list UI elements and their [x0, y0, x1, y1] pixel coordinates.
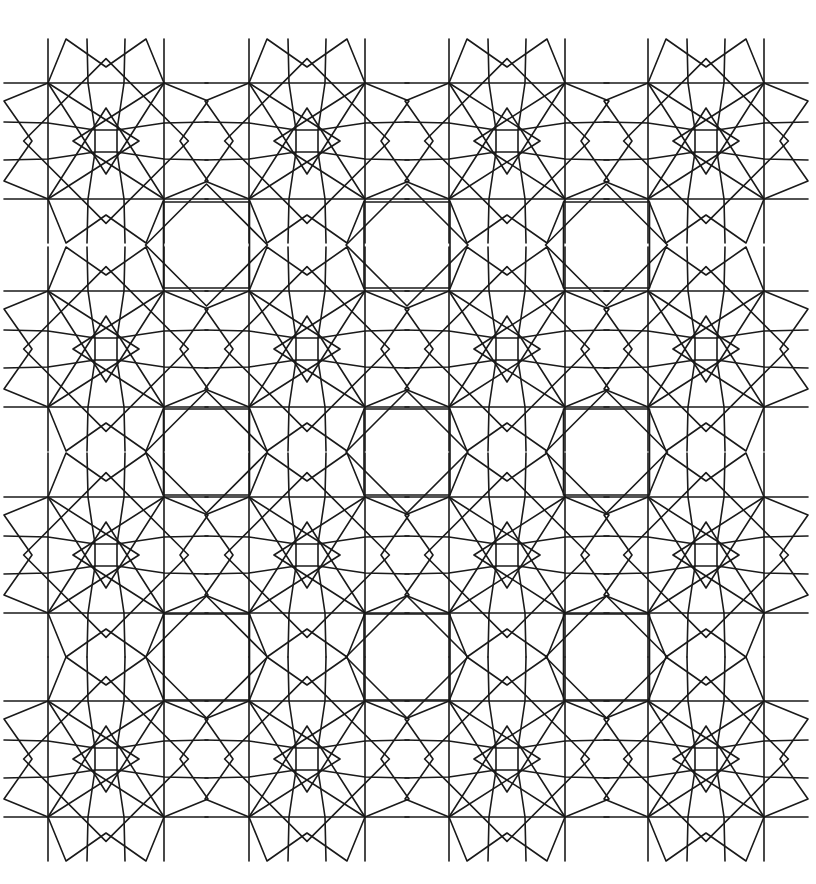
rail-vertical-inner: [518, 39, 526, 243]
star-peaks-top: [648, 657, 764, 701]
star-peaks-top: [449, 453, 565, 497]
rail-horizontal-inner: [405, 360, 609, 368]
star-chevron: [449, 701, 540, 817]
star-chevron: [673, 701, 764, 817]
star-chevron: [249, 291, 340, 407]
star-chevron: [274, 83, 365, 199]
rail-horizontal-inner: [405, 536, 609, 544]
rail-vertical-inner: [117, 247, 125, 451]
star-peaks-left: [4, 497, 48, 613]
star-chevron: [449, 497, 540, 613]
star-peaks-right: [164, 291, 208, 407]
star-peaks-right: [764, 83, 808, 199]
star-chevron: [474, 291, 565, 407]
star-chevron: [249, 701, 365, 792]
star-peaks-left: [4, 83, 48, 199]
rail-vertical-inner: [518, 247, 526, 451]
rail-horizontal-inner: [604, 536, 808, 544]
star-chevron: [48, 522, 164, 613]
star-peaks-top: [449, 247, 565, 291]
star-peaks-right: [365, 497, 409, 613]
rail-horizontal-inner: [4, 536, 208, 544]
rail-vertical-inner: [687, 39, 695, 243]
star-peaks-left: [205, 701, 249, 817]
rail-horizontal-inner: [405, 122, 609, 130]
rail-vertical-inner: [518, 657, 526, 861]
star-peaks-right: [565, 83, 609, 199]
star-chevron: [449, 291, 540, 407]
rail-horizontal-inner: [4, 152, 208, 160]
rail-vertical-inner: [488, 453, 496, 657]
rail-vertical-inner: [717, 453, 725, 657]
star-chevron: [449, 497, 565, 588]
rail-vertical-inner: [318, 247, 326, 451]
star-peaks-bottom: [648, 817, 764, 861]
star-peaks-left: [205, 291, 249, 407]
star-peaks-right: [164, 83, 208, 199]
rail-vertical-inner: [318, 657, 326, 861]
star-chevron: [648, 291, 739, 407]
star-peaks-top: [48, 247, 164, 291]
star-peaks-left: [205, 497, 249, 613]
star-chevron: [249, 497, 365, 588]
star-peaks-right: [365, 291, 409, 407]
star-peaks-bottom: [648, 407, 764, 451]
rail-horizontal-inner: [205, 566, 409, 574]
star-chevron: [449, 83, 565, 174]
rail-horizontal-inner: [205, 740, 409, 748]
star-peaks-bottom: [648, 199, 764, 243]
star-peaks-top: [48, 453, 164, 497]
rail-vertical-inner: [318, 453, 326, 657]
star-chevron: [449, 701, 565, 792]
star-peaks-right: [365, 701, 409, 817]
star-chevron: [48, 726, 164, 817]
rail-vertical-inner: [488, 39, 496, 243]
star-chevron: [474, 83, 565, 199]
rail-horizontal-inner: [604, 740, 808, 748]
star-chevron: [474, 701, 565, 817]
rail-horizontal-inner: [405, 740, 609, 748]
star-peaks-left: [405, 83, 449, 199]
star-chevron: [73, 701, 164, 817]
rail-horizontal-inner: [205, 770, 409, 778]
rail-horizontal-inner: [405, 566, 609, 574]
star-peaks-top: [48, 657, 164, 701]
rail-vertical-inner: [488, 657, 496, 861]
rail-horizontal-inner: [4, 740, 208, 748]
star-chevron: [48, 83, 164, 174]
pattern-canvas: [0, 0, 816, 884]
star-peaks-top: [249, 657, 365, 701]
star-peaks-right: [365, 83, 409, 199]
star-peaks-right: [764, 497, 808, 613]
star-peaks-top: [648, 247, 764, 291]
star-chevron: [648, 291, 764, 382]
star-peaks-left: [604, 701, 648, 817]
star-peaks-bottom: [48, 407, 164, 451]
rail-horizontal-inner: [4, 360, 208, 368]
star-chevron: [274, 291, 365, 407]
rail-horizontal-inner: [205, 330, 409, 338]
star-peaks-top: [449, 657, 565, 701]
rail-vertical-inner: [117, 657, 125, 861]
rail-vertical-inner: [518, 453, 526, 657]
rail-vertical-inner: [717, 247, 725, 451]
star-chevron: [449, 83, 540, 199]
rail-horizontal-inner: [604, 330, 808, 338]
rail-horizontal-inner: [604, 122, 808, 130]
star-chevron: [73, 291, 164, 407]
star-peaks-bottom: [48, 817, 164, 861]
star-chevron: [48, 701, 139, 817]
rail-horizontal-inner: [4, 770, 208, 778]
star-peaks-right: [164, 701, 208, 817]
star-chevron: [648, 497, 764, 588]
star-chevron: [249, 497, 340, 613]
rail-vertical-inner: [288, 247, 296, 451]
star-chevron: [449, 522, 565, 613]
star-peaks-top: [449, 39, 565, 83]
rail-vertical-inner: [288, 39, 296, 243]
rail-vertical-inner: [488, 247, 496, 451]
star-peaks-bottom: [249, 817, 365, 861]
star-chevron: [249, 726, 365, 817]
rail-horizontal-inner: [205, 152, 409, 160]
star-chevron: [48, 497, 139, 613]
